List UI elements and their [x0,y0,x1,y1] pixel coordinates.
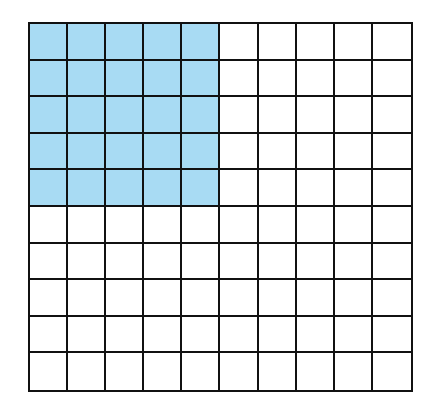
grid-cell [259,134,297,171]
shaded-cell [30,61,68,98]
grid-cell [182,280,220,317]
grid-cell [220,244,258,281]
grid-cell [297,207,335,244]
grid-cell [106,353,144,390]
shaded-cell [106,61,144,98]
grid-cell [373,317,411,354]
grid-cell [373,207,411,244]
shaded-cell [68,97,106,134]
grid-cell [259,317,297,354]
grid-cell [335,353,373,390]
grid-cell [297,134,335,171]
grid-cell [373,353,411,390]
grid-cell [373,170,411,207]
shaded-cell [182,97,220,134]
grid-cell [220,207,258,244]
shaded-cell [30,134,68,171]
grid-cell [144,207,182,244]
grid-cell [68,244,106,281]
grid-cell [297,353,335,390]
grid-cell [68,207,106,244]
grid-cell [335,207,373,244]
grid-cell [30,317,68,354]
grid-cell [335,280,373,317]
shaded-cell [144,61,182,98]
shaded-cell [68,61,106,98]
grid-cell [373,61,411,98]
grid-cell [335,317,373,354]
shaded-cell [182,24,220,61]
grid-cell [144,353,182,390]
grid-cell [373,280,411,317]
grid-cell [297,24,335,61]
grid-cell [297,317,335,354]
shaded-cell [30,97,68,134]
shaded-cell [144,134,182,171]
grid-cell [335,97,373,134]
grid-cell [220,97,258,134]
grid-cell [68,317,106,354]
grid-cell [220,280,258,317]
grid-cell [259,244,297,281]
grid-cell [106,280,144,317]
grid-cell [68,353,106,390]
grid-cell [297,170,335,207]
grid-cell [30,207,68,244]
shaded-cell [30,24,68,61]
grid-cell [144,244,182,281]
grid-cell [30,353,68,390]
grid-cell [259,97,297,134]
grid-cell [259,170,297,207]
grid-cell [259,24,297,61]
shaded-cell [30,170,68,207]
grid-cell [106,207,144,244]
grid-cell [335,170,373,207]
grid-cell [335,61,373,98]
grid-cell [335,134,373,171]
grid-cell [297,244,335,281]
grid-cell [259,207,297,244]
shaded-cell [68,24,106,61]
grid-cell [373,134,411,171]
shaded-cell [68,134,106,171]
grid-cell [297,61,335,98]
shaded-cell [182,170,220,207]
grid-cell [182,353,220,390]
shaded-cell [106,170,144,207]
grid-cell [182,244,220,281]
grid-cell [373,244,411,281]
shaded-cell [182,134,220,171]
shaded-cell [144,170,182,207]
hundred-grid [28,22,413,392]
grid-cell [335,24,373,61]
grid-cell [68,280,106,317]
shaded-cell [106,24,144,61]
grid-cell [220,170,258,207]
grid-cell [297,280,335,317]
grid-cell [106,317,144,354]
grid-cell [30,280,68,317]
grid-cell [106,244,144,281]
shaded-cell [144,97,182,134]
grid-cell [30,244,68,281]
grid-cell [144,280,182,317]
grid-cell [259,61,297,98]
grid-cell [220,134,258,171]
grid-cell [144,317,182,354]
grid-cell [297,97,335,134]
shaded-cell [68,170,106,207]
grid-cell [335,244,373,281]
shaded-cell [144,24,182,61]
shaded-cell [106,134,144,171]
grid-cell [182,317,220,354]
grid-cell [373,24,411,61]
grid-cell [373,97,411,134]
shaded-cell [182,61,220,98]
shaded-cell [106,97,144,134]
grid-cell [259,353,297,390]
grid-cell [182,207,220,244]
grid-cell [220,24,258,61]
grid-cell [220,353,258,390]
grid-cell [259,280,297,317]
grid-cell [220,317,258,354]
